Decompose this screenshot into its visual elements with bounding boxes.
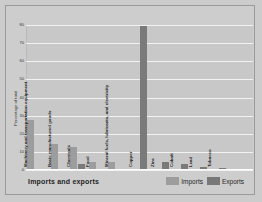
legend-item-exports: Exports: [207, 177, 244, 185]
legend-label-exports: Exports: [222, 178, 244, 185]
x-category-label: Mineral fuels, lubricants, and electrici…: [104, 85, 109, 167]
bar-imports: [27, 120, 34, 169]
y-tick-label: 60: [20, 59, 24, 63]
legend-label-imports: Imports: [181, 178, 203, 185]
chart-figure: Percentage of total 01020304050607080 Ma…: [0, 0, 262, 202]
bar-group: Zinc: [154, 25, 173, 169]
y-axis-title: Percentage of total: [13, 56, 18, 126]
legend-item-imports: Imports: [166, 177, 203, 185]
legend-swatch-imports: [166, 177, 179, 185]
legend: Imports Exports: [166, 177, 244, 185]
x-category-label: Cobalt: [169, 153, 174, 167]
plot-area: 01020304050607080 Machinery and transpor…: [26, 25, 253, 170]
bar-group: Chemicals: [70, 25, 89, 169]
bar-group: Mineral fuels, lubricants, and electrici…: [108, 25, 132, 169]
bar-group: Copper: [132, 25, 154, 169]
bar-group: Lead: [192, 25, 211, 169]
chart-title: Imports and exports: [28, 178, 99, 185]
bar-group: Cobalt: [173, 25, 192, 169]
bar-exports: [140, 26, 147, 169]
x-category-label: Copper: [128, 152, 133, 167]
x-category-label: Food: [85, 156, 90, 167]
bar-imports: [51, 144, 58, 169]
bar-exports: [162, 162, 169, 169]
chart-footer: Imports and exports Imports Exports: [26, 174, 246, 196]
x-category-label: Tobacco: [207, 149, 212, 167]
y-tick-label: 80: [20, 23, 24, 27]
chart-card: Percentage of total 01020304050607080 Ma…: [5, 5, 255, 195]
y-tick-label: 50: [20, 77, 24, 81]
x-category-label: Basic manufactured goods: [47, 111, 52, 167]
x-category-label: Chemicals: [66, 145, 71, 167]
x-category-label: Machinery and transportation equipment: [23, 82, 28, 167]
gridline: [26, 170, 253, 171]
y-tick-label: 70: [20, 41, 24, 45]
bar-imports: [108, 162, 115, 169]
x-category-label: Zinc: [150, 158, 155, 167]
y-tick-label: 0: [22, 168, 24, 172]
bar-imports: [89, 162, 96, 169]
bar-groups: Machinery and transportation equipmentBa…: [27, 25, 253, 169]
bar-group: Tobacco: [211, 25, 230, 169]
x-axis-line: [26, 169, 253, 170]
x-category-label: Lead: [188, 157, 193, 167]
bar-imports: [70, 147, 77, 169]
legend-swatch-exports: [207, 177, 220, 185]
